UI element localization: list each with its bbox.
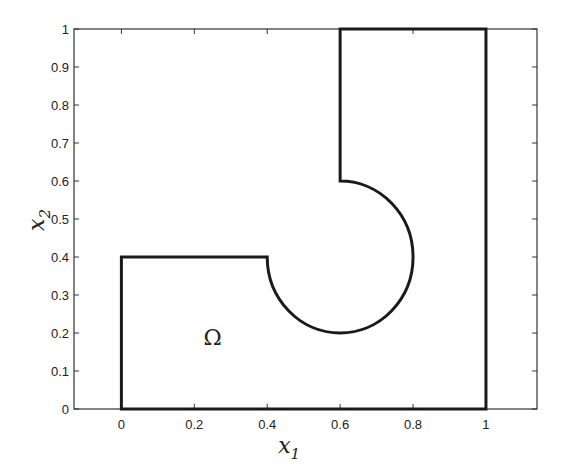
axes-box <box>74 29 537 409</box>
y-axis-label: x2 <box>24 209 54 231</box>
y-tick-label: 0.8 <box>51 98 69 113</box>
y-tick-label: 0.3 <box>51 288 69 303</box>
domain-boundary-curve <box>121 29 486 409</box>
y-tick-label: 1 <box>62 22 69 37</box>
y-tick-label: 0.6 <box>51 174 69 189</box>
y-tick-label: 0.2 <box>51 326 69 341</box>
svg-text:x2: x2 <box>24 209 54 231</box>
x-axis-label: x1 <box>278 433 300 463</box>
x-tick-label: 0 <box>118 417 125 432</box>
y-tick-label: 0 <box>62 402 69 417</box>
x-tick-label: 1 <box>482 417 489 432</box>
y-tick-label: 0.9 <box>51 60 69 75</box>
svg-text:x1: x1 <box>278 433 300 463</box>
x-tick-label: 0.2 <box>185 417 203 432</box>
x-axis-ticks: 00.20.40.60.81 <box>118 29 490 432</box>
x-tick-label: 0.4 <box>258 417 276 432</box>
plot-canvas: 00.20.40.60.81 00.10.20.30.40.50.60.70.8… <box>0 0 570 464</box>
y-tick-label: 0.7 <box>51 136 69 151</box>
x-tick-label: 0.6 <box>331 417 349 432</box>
omega-annotation: Ω <box>203 325 221 350</box>
x-tick-label: 0.8 <box>404 417 422 432</box>
y-axis-ticks: 00.10.20.30.40.50.60.70.80.91 <box>51 22 537 417</box>
y-tick-label: 0.1 <box>51 364 69 379</box>
y-tick-label: 0.4 <box>51 250 69 265</box>
